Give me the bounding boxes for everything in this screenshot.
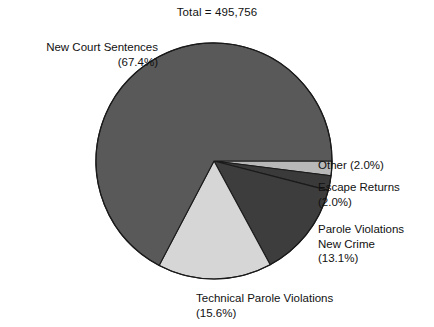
slice-label-new-court-sentences: New Court Sentences (67.4%) <box>8 40 158 69</box>
slice-label-parole-violations-new-crime: Parole Violations New Crime (13.1%) <box>318 222 434 266</box>
slice-label-escape-returns: Escape Returns (2.0%) <box>318 180 430 209</box>
pie-slices-group <box>96 43 332 279</box>
slice-label-other: Other (2.0%) <box>318 158 430 173</box>
pie-chart: Total = 495,756 New Court Sentences (67.… <box>0 0 434 327</box>
slice-label-technical-parole-violations: Technical Parole Violations (15.6%) <box>196 291 386 320</box>
